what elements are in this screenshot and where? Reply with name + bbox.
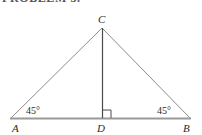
angle-label-A: 45° [26,105,40,116]
vertex-label-A: A [11,122,19,134]
side-AC [11,28,102,118]
triangle-diagram-svg: C A D B 45° 45° [0,0,202,135]
geometry-figure: PROBLEM 3. C A D B 45° 45° [0,0,202,135]
side-CB [102,28,190,118]
vertex-label-C: C [98,13,106,25]
angle-label-B: 45° [157,105,171,116]
vertex-label-D: D [96,122,105,134]
right-angle-mark-icon [103,110,111,118]
vertex-label-B: B [183,122,190,134]
